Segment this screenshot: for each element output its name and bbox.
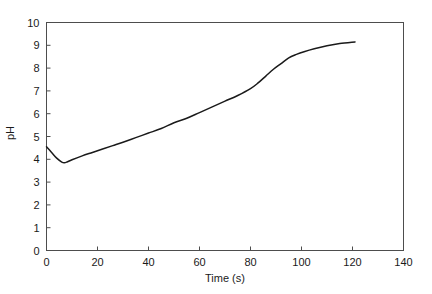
y-tick-label: 3	[33, 176, 39, 188]
x-tick-label: 120	[343, 256, 361, 268]
y-tick-label: 6	[33, 108, 39, 120]
ph-curve	[47, 42, 356, 163]
y-tick-label: 0	[33, 245, 39, 257]
y-tick-label: 9	[33, 39, 39, 51]
x-tick-label: 40	[142, 256, 154, 268]
y-tick-label: 1	[33, 222, 39, 234]
y-axis-tick-labels: 012345678910	[27, 17, 39, 257]
x-axis-tick-labels: 020406080100120140	[43, 256, 412, 268]
x-axis-title: Time (s)	[205, 272, 245, 284]
x-tick-label: 0	[43, 256, 49, 268]
ph-vs-time-line-chart: 012345678910 020406080100120140 Time (s)…	[0, 0, 432, 294]
y-axis-ticks	[47, 23, 51, 251]
x-tick-label: 140	[394, 256, 412, 268]
x-axis-ticks	[47, 247, 404, 251]
y-tick-label: 4	[33, 153, 39, 165]
x-tick-label: 100	[292, 256, 310, 268]
x-tick-label: 80	[244, 256, 256, 268]
y-tick-label: 5	[33, 131, 39, 143]
x-tick-label: 60	[193, 256, 205, 268]
y-tick-label: 8	[33, 62, 39, 74]
x-tick-label: 20	[91, 256, 103, 268]
y-axis-title: pH	[4, 126, 16, 140]
chart-figure: 012345678910 020406080100120140 Time (s)…	[0, 0, 432, 294]
y-tick-label: 7	[33, 85, 39, 97]
y-tick-label: 10	[27, 17, 39, 29]
y-tick-label: 2	[33, 199, 39, 211]
plot-area-border	[47, 23, 404, 251]
